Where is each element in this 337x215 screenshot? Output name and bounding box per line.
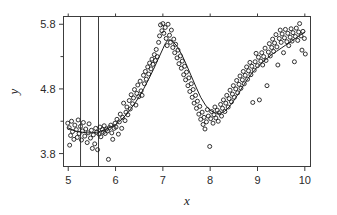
data-point bbox=[243, 73, 247, 77]
data-point bbox=[224, 101, 228, 105]
data-point bbox=[279, 40, 283, 44]
data-point bbox=[238, 74, 242, 78]
data-point bbox=[257, 98, 261, 102]
data-point bbox=[154, 47, 158, 51]
fit-curve-path bbox=[68, 32, 305, 133]
data-point bbox=[241, 69, 245, 73]
data-point bbox=[195, 99, 199, 103]
data-point bbox=[90, 146, 94, 150]
data-point bbox=[273, 41, 277, 45]
data-point bbox=[164, 36, 168, 40]
data-point bbox=[237, 82, 241, 86]
data-point bbox=[169, 28, 173, 32]
data-point bbox=[73, 123, 77, 127]
data-point bbox=[291, 31, 295, 35]
data-point bbox=[167, 33, 171, 37]
data-point bbox=[275, 45, 279, 49]
y-tick-label-3.8: 3.8 bbox=[40, 148, 55, 160]
data-point bbox=[297, 30, 301, 34]
data-point bbox=[89, 128, 93, 132]
data-point bbox=[220, 114, 224, 118]
scatter-plot-figure: 5678910 3.84.85.8 xy bbox=[0, 0, 337, 215]
data-point bbox=[132, 96, 136, 100]
data-point bbox=[141, 73, 145, 77]
data-point bbox=[87, 122, 91, 126]
y-tick-label-5.8: 5.8 bbox=[40, 18, 55, 30]
plot-border bbox=[64, 17, 311, 167]
data-point bbox=[198, 104, 202, 108]
data-point bbox=[216, 119, 220, 123]
data-point bbox=[81, 121, 85, 125]
data-point bbox=[127, 99, 131, 103]
data-point bbox=[245, 65, 249, 69]
data-point bbox=[206, 114, 210, 118]
plot-frame bbox=[64, 17, 311, 167]
data-point bbox=[219, 102, 223, 106]
x-tick-label-10: 10 bbox=[299, 174, 311, 186]
data-point bbox=[84, 127, 88, 131]
data-point bbox=[256, 55, 260, 59]
data-point bbox=[116, 132, 120, 136]
data-point bbox=[204, 120, 208, 124]
data-point bbox=[211, 121, 215, 125]
data-point bbox=[303, 52, 307, 56]
data-point bbox=[122, 101, 126, 105]
data-point bbox=[208, 144, 212, 148]
data-point bbox=[138, 79, 142, 83]
y-axis-ticks bbox=[59, 24, 64, 153]
data-point bbox=[265, 84, 269, 88]
data-point bbox=[209, 117, 213, 121]
data-point bbox=[240, 78, 244, 82]
data-point bbox=[263, 46, 267, 50]
data-point bbox=[296, 38, 300, 42]
data-point bbox=[289, 27, 293, 31]
data-point bbox=[266, 50, 270, 54]
data-point bbox=[254, 51, 258, 55]
data-point bbox=[68, 143, 72, 147]
data-point bbox=[194, 93, 198, 97]
data-point bbox=[274, 33, 278, 37]
data-point bbox=[292, 60, 296, 64]
data-point bbox=[278, 28, 282, 32]
data-point bbox=[286, 31, 290, 35]
data-point bbox=[234, 87, 238, 91]
data-point bbox=[202, 115, 206, 119]
data-point bbox=[85, 141, 89, 145]
data-point bbox=[267, 42, 271, 46]
y-axis-title: y bbox=[6, 88, 21, 96]
data-point bbox=[123, 119, 127, 123]
data-point bbox=[251, 100, 255, 104]
y-axis-tick-labels: 3.84.85.8 bbox=[40, 18, 55, 159]
plot-canvas: 5678910 3.84.85.8 xy bbox=[0, 0, 337, 215]
data-point bbox=[277, 36, 281, 40]
data-point bbox=[280, 32, 284, 36]
data-point bbox=[288, 35, 292, 39]
data-point bbox=[262, 55, 266, 59]
data-point bbox=[294, 26, 298, 30]
data-point bbox=[106, 157, 110, 161]
data-point bbox=[165, 44, 169, 48]
data-point bbox=[270, 46, 274, 50]
data-point bbox=[94, 126, 98, 130]
smooth-fit-curve bbox=[68, 32, 305, 133]
x-tick-label-5: 5 bbox=[65, 174, 71, 186]
x-axis-tick-labels: 5678910 bbox=[65, 174, 311, 186]
data-point bbox=[111, 137, 115, 141]
data-point bbox=[132, 88, 136, 92]
data-point bbox=[276, 63, 280, 67]
x-axis-title: x bbox=[183, 193, 190, 208]
data-point bbox=[76, 118, 80, 122]
data-point bbox=[250, 64, 254, 68]
data-point bbox=[110, 131, 114, 135]
data-point bbox=[228, 88, 232, 92]
data-point bbox=[75, 135, 79, 139]
vertical-reference-lines bbox=[81, 17, 99, 167]
data-point bbox=[93, 142, 97, 146]
data-point bbox=[282, 51, 286, 55]
data-point bbox=[302, 36, 306, 40]
data-point bbox=[298, 22, 302, 26]
data-point bbox=[248, 60, 252, 64]
data-point bbox=[203, 127, 207, 131]
x-tick-label-8: 8 bbox=[207, 174, 213, 186]
data-point bbox=[69, 133, 73, 137]
